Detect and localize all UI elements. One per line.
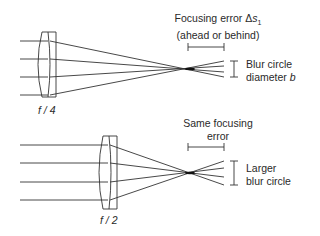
- bottom-blur-bracket: [230, 161, 238, 185]
- blur-diameter-symbol: b: [290, 71, 296, 83]
- subscript-1: 1: [257, 19, 261, 26]
- top-focusing-error-bar: [188, 43, 224, 51]
- top-aperture-label: f / 4: [38, 104, 56, 117]
- top-focal-point: [185, 68, 195, 70]
- top-blur-label: Blur circle diameter b: [246, 58, 296, 84]
- top-blur-label-line1: Blur circle: [246, 58, 296, 71]
- top-blur-label-line2: diameter: [246, 71, 290, 83]
- bottom-blur-label: Larger blur circle: [246, 162, 291, 188]
- bottom-blur-label-line2: blur circle: [246, 175, 291, 188]
- bottom-aperture-label: f / 2: [100, 214, 118, 227]
- bottom-blur-label-line1: Larger: [246, 162, 291, 175]
- bottom-focusing-error-bar: [188, 143, 224, 151]
- top-blur-bracket: [230, 61, 238, 77]
- top-error-label-line2: (ahead or behind): [163, 29, 273, 42]
- bottom-error-label-line1: Same focusing: [163, 117, 273, 130]
- bottom-focal-point: [185, 172, 195, 174]
- bottom-incoming-rays: [20, 145, 108, 200]
- top-error-label: Focusing error Δs1 (ahead or behind): [163, 12, 273, 42]
- bottom-converging-rays: [110, 145, 224, 200]
- top-incoming-rays: [20, 41, 48, 95]
- top-converging-rays: [50, 41, 224, 95]
- bottom-error-label: Same focusing error: [163, 117, 273, 143]
- top-error-label-text: Focusing error Δ: [175, 12, 253, 24]
- bottom-error-label-line2: error: [163, 130, 273, 143]
